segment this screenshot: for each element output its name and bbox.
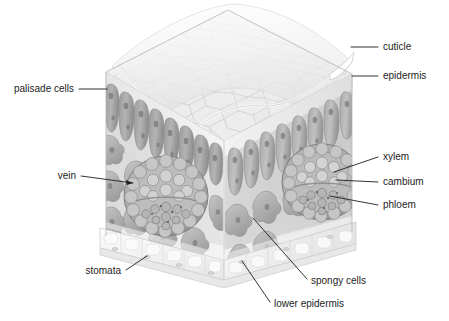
label-palisade-cells[interactable]: palisade cells (14, 83, 107, 94)
figure-canvas: cuticle epidermis palisade cells xylem c… (0, 0, 449, 321)
label-text-spongy-cells: spongy cells (311, 275, 366, 286)
vein-bundle-left (124, 155, 208, 238)
label-text-stomata: stomata (85, 265, 121, 276)
label-text-xylem: xylem (383, 151, 409, 162)
label-text-cambium: cambium (383, 176, 424, 187)
label-text-lower-epidermis: lower epidermis (274, 298, 344, 309)
label-text-cuticle: cuticle (383, 41, 412, 52)
label-text-vein: vein (58, 170, 76, 181)
label-text-phloem: phloem (383, 199, 416, 210)
leaf-structure-diagram: cuticle epidermis palisade cells xylem c… (0, 0, 449, 321)
label-epidermis[interactable]: epidermis (352, 70, 426, 81)
label-text-epidermis: epidermis (383, 70, 426, 81)
label-cuticle[interactable]: cuticle (351, 41, 412, 52)
label-text-palisade-cells: palisade cells (14, 83, 74, 94)
